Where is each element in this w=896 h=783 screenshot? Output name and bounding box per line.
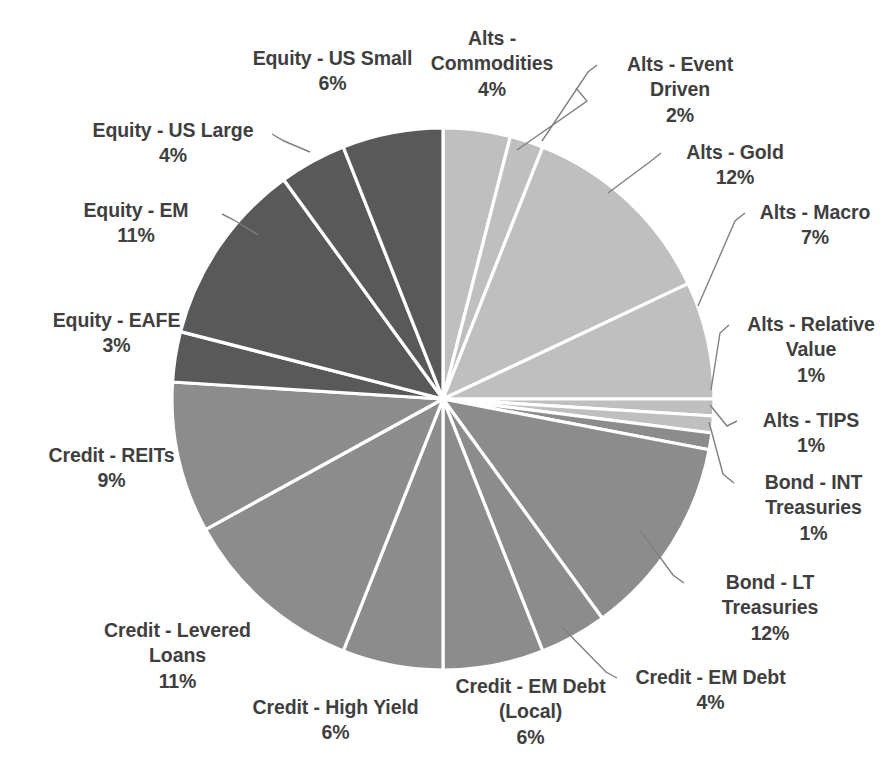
pie-chart-canvas: [0, 0, 896, 783]
pie-slices-group: [172, 128, 714, 670]
leader-line: [542, 65, 597, 141]
leader-line: [608, 153, 661, 193]
leader-line: [561, 626, 617, 678]
leader-line: [272, 134, 310, 152]
pie-chart: Alts - Commodities4%Alts - Event Driven2…: [0, 0, 896, 783]
leader-line: [698, 213, 745, 306]
